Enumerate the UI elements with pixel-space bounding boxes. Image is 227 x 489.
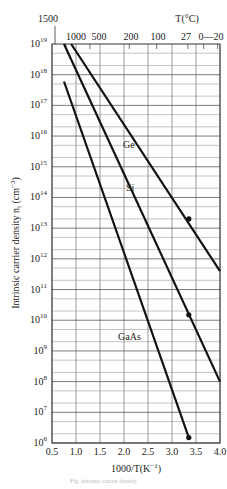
top-axis-label: T(°C) xyxy=(175,13,198,25)
y-tick-label: 1015 xyxy=(30,159,48,172)
y-tick-label: 1014 xyxy=(30,189,48,202)
series-marker-gaas xyxy=(186,435,191,440)
y-tick-label: 1013 xyxy=(30,220,48,233)
x-axis-ticks: 0.51.01.52.02.53.03.54.0 xyxy=(46,446,227,457)
plot-frame xyxy=(52,44,220,443)
x-tick-label: 1.5 xyxy=(94,446,107,457)
series-label-gaas: GaAs xyxy=(118,331,141,342)
x-tick-label: 4.0 xyxy=(214,446,227,457)
top-tick-label: 500 xyxy=(92,31,107,42)
top-tick-label: 200 xyxy=(124,31,139,42)
y-tick-label: 1017 xyxy=(30,97,48,110)
top-tick-label: 27 xyxy=(181,31,191,42)
y-tick-label: 107 xyxy=(34,404,48,417)
x-tick-label: 3.5 xyxy=(190,446,203,457)
series-line-gaas xyxy=(64,82,189,438)
top-tick-1500: 1500 xyxy=(38,13,58,24)
figure-caption: Fig. intrinsic carrier density xyxy=(70,478,137,484)
y-tick-label: 1010 xyxy=(30,312,48,325)
x-tick-label: 1.0 xyxy=(70,446,83,457)
series-marker-ge xyxy=(186,216,191,221)
series-lines xyxy=(64,44,220,440)
top-tick-label: 1000 xyxy=(66,31,86,42)
top-tick-label: 100 xyxy=(151,31,166,42)
series-line-si xyxy=(64,44,220,382)
series-label-ge: Ge xyxy=(123,139,135,150)
top-axis-ticks: 1000500200100270—20 xyxy=(66,31,224,49)
x-tick-label: 3.0 xyxy=(166,446,179,457)
series-marker-si xyxy=(186,312,191,317)
x-tick-label: 2.5 xyxy=(142,446,155,457)
top-tick-label: 0—20 xyxy=(199,31,224,42)
x-tick-label: 0.5 xyxy=(46,446,59,457)
y-tick-label: 1018 xyxy=(30,67,48,80)
intrinsic-carrier-chart: 1019101810171016101510141013101210111010… xyxy=(0,0,227,489)
y-axis-ticks: 1019101810171016101510141013101210111010… xyxy=(30,36,48,448)
y-tick-label: 1019 xyxy=(30,36,48,49)
y-tick-label: 1016 xyxy=(30,128,48,141)
y-tick-label: 1011 xyxy=(30,282,47,295)
x-axis-label: 1000/T(K−1) xyxy=(111,462,161,475)
y-tick-label: 1012 xyxy=(30,251,48,264)
series-label-si: Si xyxy=(126,182,135,193)
x-tick-label: 2.0 xyxy=(118,446,131,457)
y-tick-label: 108 xyxy=(34,374,48,387)
y-tick-label: 109 xyxy=(34,343,48,356)
y-axis-label: Intrinsic carrier density ni (cm−3) xyxy=(9,177,23,309)
grid xyxy=(52,44,220,443)
